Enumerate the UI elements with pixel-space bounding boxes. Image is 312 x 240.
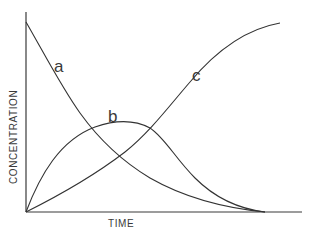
curve-b xyxy=(26,122,265,212)
curve-c-label: c xyxy=(192,66,201,85)
curve-a xyxy=(26,22,265,212)
y-axis-label: CONCENTRATION xyxy=(8,90,19,184)
concentration-time-chart: a b c TIME CONCENTRATION xyxy=(0,0,312,240)
curve-b-label: b xyxy=(108,107,117,126)
curve-c xyxy=(26,23,280,212)
curve-a-label: a xyxy=(54,57,64,76)
x-axis-label: TIME xyxy=(108,218,134,229)
